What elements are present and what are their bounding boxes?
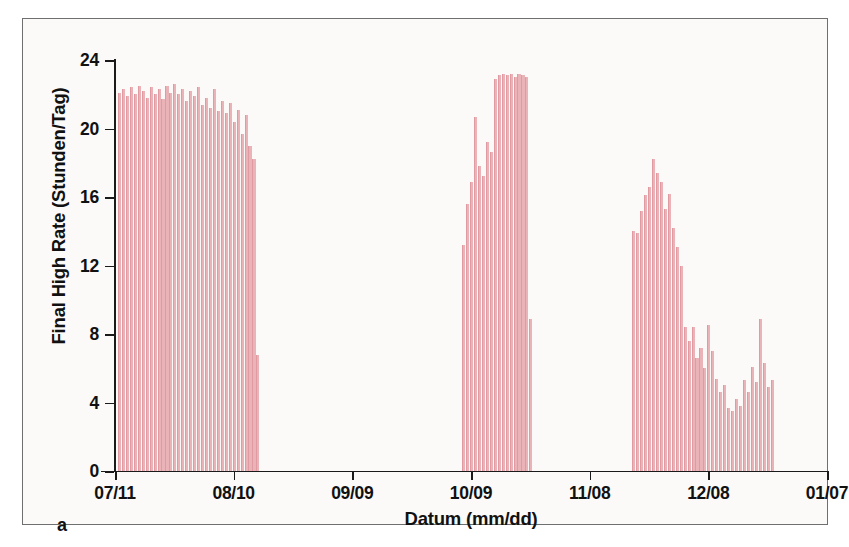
x-axis-tick: [827, 471, 829, 480]
bar: [161, 99, 164, 471]
bar: [660, 182, 663, 471]
bar: [185, 101, 188, 471]
bar: [474, 117, 477, 471]
bar: [189, 91, 192, 471]
bar: [707, 325, 710, 471]
bar: [173, 84, 176, 471]
bar: [126, 96, 129, 471]
bar: [466, 204, 469, 471]
y-axis-tick-label-text: 12: [80, 255, 99, 276]
x-axis-tick-label: 01/07: [806, 483, 848, 504]
x-axis-title: Datum (mm/dd): [115, 508, 827, 530]
bar: [478, 166, 481, 471]
bar: [692, 327, 695, 471]
bar: [490, 152, 493, 471]
bar: [699, 348, 702, 471]
bar: [181, 89, 184, 471]
bar: [680, 266, 683, 472]
bar: [142, 91, 145, 471]
x-axis-tick: [115, 471, 117, 480]
bar: [672, 228, 675, 471]
x-axis-tick: [352, 471, 354, 480]
bar: [723, 385, 726, 471]
bar: [668, 194, 671, 471]
x-axis-tick: [471, 471, 473, 480]
bar: [664, 209, 667, 471]
bar: [462, 245, 465, 471]
figure-panel-frame: 04812162024 07/1108/1009/0910/0911/0812/…: [22, 18, 828, 525]
y-axis-tick: [105, 334, 114, 336]
bar: [529, 319, 532, 471]
y-axis-tick: [105, 197, 114, 199]
bar: [197, 87, 200, 471]
bar: [130, 87, 133, 471]
bar: [502, 74, 505, 471]
bar: [652, 159, 655, 471]
bar: [237, 110, 240, 471]
bar: [656, 173, 659, 471]
y-axis-tick: [105, 471, 114, 473]
bar: [158, 89, 161, 471]
bar: [248, 146, 251, 471]
bar: [256, 355, 259, 471]
bar: [719, 392, 722, 471]
bar: [517, 74, 520, 471]
x-axis-tick-label: 10/09: [450, 483, 492, 504]
bar: [767, 387, 770, 471]
bar: [739, 406, 742, 471]
bar: [177, 94, 180, 471]
x-axis-tick-label: 07/11: [94, 483, 135, 504]
bar: [644, 195, 647, 471]
bar: [731, 411, 734, 471]
bar: [169, 93, 172, 471]
bar: [138, 86, 141, 471]
bar: [648, 187, 651, 471]
bar: [676, 247, 679, 471]
bar: [217, 111, 220, 471]
bar: [146, 98, 149, 471]
bar: [233, 122, 236, 471]
bar: [118, 93, 121, 471]
y-axis-tick-label-text: 16: [80, 187, 99, 208]
bar: [252, 159, 255, 471]
bar: [735, 399, 738, 471]
y-axis-tick: [105, 266, 114, 268]
y-axis-tick-label-text: 24: [80, 50, 99, 71]
bar: [743, 380, 746, 471]
bar: [695, 358, 698, 471]
bar: [470, 182, 473, 471]
bar: [525, 77, 528, 471]
bar: [711, 351, 714, 471]
plot-area: [115, 60, 827, 471]
bar: [241, 134, 244, 471]
bar: [755, 382, 758, 471]
bar: [688, 341, 691, 471]
y-axis-title: Final High Rate (Stunden/Tag): [48, 16, 70, 416]
bar: [727, 408, 730, 471]
bar: [510, 74, 513, 471]
y-axis-tick-label-text: 20: [80, 118, 99, 139]
bar: [514, 77, 517, 471]
y-axis-tick-label-text: 4: [89, 392, 99, 413]
x-axis-tick-label: 11/08: [569, 483, 610, 504]
y-axis-tick: [105, 60, 114, 62]
bar: [715, 379, 718, 471]
bar: [759, 319, 762, 471]
bar: [165, 86, 168, 471]
bar: [771, 380, 774, 471]
bar: [122, 89, 125, 471]
bar: [150, 87, 153, 471]
bar: [747, 392, 750, 471]
x-axis-tick: [708, 471, 710, 480]
bar: [245, 115, 248, 471]
bar: [221, 101, 224, 471]
x-axis-tick: [234, 471, 236, 480]
bar: [213, 89, 216, 471]
bar: [134, 94, 137, 471]
y-axis-tick-label-text: 0: [89, 461, 99, 482]
bar: [684, 327, 687, 471]
bar: [193, 96, 196, 471]
bar: [201, 105, 204, 471]
x-axis-tick: [590, 471, 592, 480]
bar: [225, 113, 228, 471]
